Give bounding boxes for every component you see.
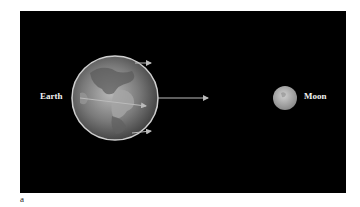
diagram-panel: Earth Moon — [20, 11, 346, 193]
earth-globe — [72, 56, 158, 140]
moon-sphere — [273, 86, 297, 110]
moon-label: Moon — [304, 91, 327, 101]
panel-label: a — [20, 194, 24, 204]
diagram-canvas — [20, 11, 346, 193]
earth-label: Earth — [40, 91, 63, 101]
